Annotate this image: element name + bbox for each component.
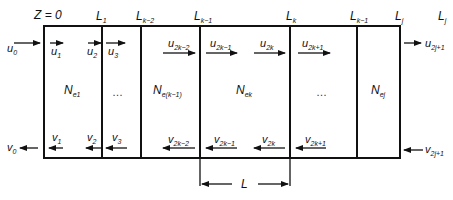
label-Lj-outer: Lj — [438, 10, 446, 24]
wave-u2k+1: u2k+1 — [302, 38, 324, 51]
segment-Nek: Nek — [236, 84, 252, 98]
wave-u2k-1: u2k−1 — [210, 38, 232, 51]
label-z0: Z = 0 — [34, 9, 62, 21]
wave-v2k: v2k — [262, 134, 275, 147]
wave-v0: v0 — [7, 142, 16, 155]
segment-Ne-k-1: Ne(k−1) — [153, 84, 182, 98]
dimension-label-L: L — [241, 178, 248, 190]
wave-v1: v1 — [52, 132, 61, 145]
wave-u1: u1 — [51, 46, 61, 59]
diagram-canvas — [0, 0, 453, 200]
label-L1: L1 — [96, 10, 107, 24]
wave-u2k-2: u2k−2 — [168, 38, 190, 51]
wave-v2k-2: v2k−2 — [168, 134, 189, 147]
wave-u2k: u2k — [260, 38, 274, 51]
backward-arrows — [20, 148, 423, 150]
label-Lk: Lk — [286, 10, 296, 24]
wave-v2j+1: v2j+1 — [425, 144, 444, 157]
wave-u2: u2 — [87, 46, 97, 59]
label-Lj: Lj — [395, 10, 403, 24]
wave-v2k+1: v2k+1 — [305, 134, 326, 147]
segment-ellipsis-2: … — [316, 86, 328, 98]
segment-Ne1: Ne1 — [64, 84, 80, 98]
label-Lk-2: Lk−2 — [136, 10, 154, 24]
wave-u2j+1: u2j+1 — [425, 38, 445, 51]
wave-v2k-1: v2k−1 — [214, 134, 235, 147]
segment-Nej: Nej — [371, 84, 385, 98]
wave-u3: u3 — [108, 46, 118, 59]
segment-ellipsis-1: … — [112, 86, 124, 98]
label-Lk-1-b: Lk−1 — [350, 10, 368, 24]
wave-u0: u0 — [7, 43, 17, 56]
wave-v3: v3 — [112, 132, 121, 145]
wave-v2: v2 — [87, 132, 96, 145]
label-Lk-1: Lk−1 — [194, 10, 212, 24]
